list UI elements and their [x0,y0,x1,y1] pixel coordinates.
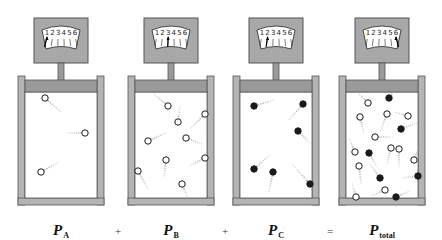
molecule [163,157,169,163]
container-total: 123456 [339,18,425,205]
cylinder-base [233,198,319,205]
cylinder-left-wall [233,76,240,205]
molecule [388,145,394,151]
gauge-number: 1 [260,29,264,37]
pressure-gauge: 123456 [34,18,88,63]
pressure-symbol: P [163,222,172,238]
pressure-label-C: PC [268,222,284,240]
gauge-number: 4 [383,29,388,37]
molecule [366,150,372,156]
molecule [411,157,417,163]
molecule [135,168,141,174]
gauge-number: 1 [366,29,370,37]
piston [240,80,312,92]
gauge-number: 2 [50,29,54,37]
cylinder-base [18,198,104,205]
gauge-number: 1 [155,29,159,37]
cylinder-interior [25,92,97,198]
gauge-number: 3 [56,29,60,37]
molecule [175,119,181,125]
gauge-number: 3 [377,29,381,37]
molecule [357,114,363,120]
cylinder-left-wall [339,76,346,205]
pressure-subscript: B [173,231,178,240]
cylinder-base [339,198,425,205]
gauge-number: 4 [277,29,282,37]
pressure-gauge: 123456 [144,18,198,63]
gauge-number: 6 [73,29,78,37]
cylinder-interior [346,92,418,198]
piston [135,80,207,92]
pressure-gauge: 123456 [249,18,303,63]
molecule [384,111,390,117]
cylinder-right-wall [207,76,214,205]
piston-rod [379,63,385,81]
partial-pressure-diagram: 123456123456123456123456 [0,0,442,240]
plus-sign: + [115,225,121,237]
cylinder-base [128,198,214,205]
cylinder-right-wall [418,76,425,205]
molecule [270,169,276,175]
gauge-number: 6 [183,29,188,37]
molecule [398,126,404,132]
gauge-number: 2 [265,29,269,37]
gauge-number: 3 [166,29,170,37]
molecule [202,111,208,117]
molecule [38,169,44,175]
molecule [179,181,185,187]
molecule [183,135,189,141]
molecule [353,194,359,200]
piston-rod [273,63,279,81]
gauge-number: 5 [388,29,392,37]
piston-rod [168,63,174,81]
piston-rod [58,63,64,81]
equals-sign: = [327,225,333,237]
cylinder-right-wall [97,76,104,205]
gauge-number: 1 [45,29,49,37]
molecule [372,134,378,140]
molecule [415,173,421,179]
gauge-number: 4 [62,29,67,37]
cylinder-interior [240,92,312,198]
molecule [165,103,171,109]
molecule [300,101,306,107]
molecule [251,166,257,172]
gauge-number: 5 [67,29,71,37]
pressure-symbol: P [369,222,378,238]
molecule [386,95,392,101]
molecule [365,100,371,106]
gauge-number: 2 [371,29,375,37]
molecule [382,187,388,193]
gauge-number: 6 [288,29,293,37]
molecule [396,146,402,152]
pressure-subscript: A [63,231,69,240]
gauge-number: 2 [160,29,164,37]
molecule [307,181,313,187]
molecule [145,138,151,144]
molecule [352,149,358,155]
molecule [393,194,399,200]
plus-sign: + [222,225,228,237]
container-C: 123456 [233,18,319,205]
piston [25,80,97,92]
pressure-label-total: Ptotal [369,222,395,240]
gauge-number: 6 [394,29,399,37]
molecule [405,113,411,119]
pressure-subscript: C [278,231,284,240]
piston [346,80,418,92]
cylinder-left-wall [128,76,135,205]
pressure-label-B: PB [163,222,179,240]
pressure-symbol: P [268,222,277,238]
gauge-number: 3 [271,29,275,37]
cylinder-left-wall [18,76,25,205]
molecule [295,128,301,134]
molecule [377,175,383,181]
molecule [82,130,88,136]
container-A: 123456 [18,18,104,205]
molecule [42,95,48,101]
molecule [251,103,257,109]
pressure-subscript: total [379,231,395,240]
container-B: 123456 [128,18,214,205]
gauge-number: 5 [282,29,286,37]
pressure-gauge: 123456 [355,18,409,63]
